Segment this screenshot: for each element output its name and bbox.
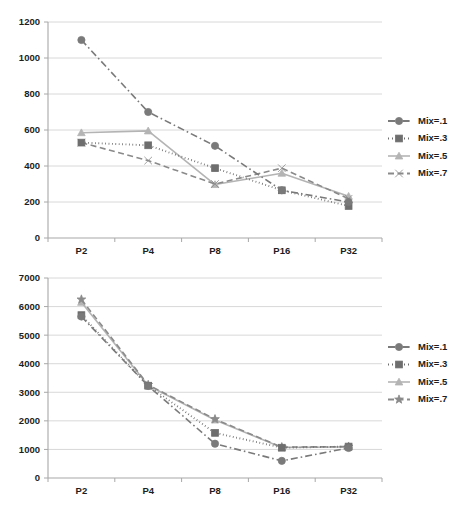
- ytick-label: 2000: [19, 415, 40, 426]
- ytick-label: 7000: [19, 272, 40, 283]
- marker-square: [212, 165, 219, 172]
- xtick-label: P4: [142, 245, 154, 256]
- series-line: [81, 302, 348, 447]
- ytick-label: 1000: [19, 444, 40, 455]
- series-line: [81, 143, 348, 206]
- marker-square: [145, 142, 152, 149]
- series-Mix5: [78, 298, 353, 450]
- series-line: [81, 299, 348, 447]
- legend-item-Mix7[interactable]: Mix=.7: [388, 393, 447, 404]
- series-line: [81, 40, 348, 202]
- ytick-label: 200: [24, 196, 40, 207]
- xtick-label: P32: [340, 485, 357, 496]
- ytick-label: 4000: [19, 358, 40, 369]
- ytick-label: 0: [35, 232, 40, 243]
- xtick-label: P32: [340, 245, 357, 256]
- legend-label: Mix=.1: [418, 341, 448, 352]
- line-chart-top: 020040060080010001200P2P4P8P16P32Mix=.1M…: [0, 0, 475, 258]
- line-chart-bottom: 01000200030004000500060007000P2P4P8P16P3…: [0, 258, 475, 511]
- series-Mix3: [78, 312, 352, 451]
- xtick-label: P2: [76, 485, 88, 496]
- series-Mix7: [77, 295, 353, 451]
- chart-panel-top: 020040060080010001200P2P4P8P16P32Mix=.1M…: [0, 0, 475, 258]
- legend-label: Mix=.5: [418, 376, 448, 387]
- marker-circle: [78, 313, 85, 320]
- series-Mix5: [78, 127, 353, 199]
- legend-label: Mix=.3: [418, 358, 447, 369]
- marker-circle: [278, 457, 285, 464]
- legend-item-Mix5[interactable]: Mix=.5: [388, 150, 448, 161]
- xtick-label: P2: [76, 245, 88, 256]
- legend-label: Mix=.7: [418, 167, 447, 178]
- legend-item-Mix7[interactable]: Mix=.7: [388, 167, 447, 178]
- legend-item-Mix1[interactable]: Mix=.1: [388, 341, 448, 352]
- ytick-label: 6000: [19, 301, 40, 312]
- marker-circle: [345, 444, 352, 451]
- legend-item-Mix5[interactable]: Mix=.5: [388, 376, 448, 387]
- legend-item-Mix3[interactable]: Mix=.3: [388, 358, 447, 369]
- marker-square: [212, 429, 219, 436]
- ytick-label: 1200: [19, 16, 40, 27]
- marker-square: [278, 444, 285, 451]
- ytick-label: 5000: [19, 330, 40, 341]
- marker-square: [396, 135, 403, 142]
- ytick-label: 800: [24, 88, 40, 99]
- marker-circle: [395, 117, 402, 124]
- marker-circle: [395, 343, 402, 350]
- marker-circle: [78, 36, 85, 43]
- xtick-label: P4: [142, 485, 154, 496]
- xtick-label: P16: [273, 245, 290, 256]
- ytick-label: 600: [24, 124, 40, 135]
- xtick-label: P16: [273, 485, 290, 496]
- marker-circle: [278, 187, 285, 194]
- xtick-label: P8: [209, 245, 221, 256]
- marker-circle: [345, 198, 352, 205]
- ytick-label: 3000: [19, 387, 40, 398]
- marker-square: [396, 361, 403, 368]
- xtick-label: P8: [209, 485, 221, 496]
- chart-panel-bottom: 01000200030004000500060007000P2P4P8P16P3…: [0, 258, 475, 511]
- marker-square: [78, 139, 85, 146]
- series-line: [81, 317, 348, 461]
- marker-star: [395, 395, 404, 403]
- ytick-label: 400: [24, 160, 40, 171]
- legend-label: Mix=.1: [418, 115, 448, 126]
- legend-item-Mix1[interactable]: Mix=.1: [388, 115, 448, 126]
- ytick-label: 1000: [19, 52, 40, 63]
- ytick-label: 0: [35, 472, 40, 483]
- legend-item-Mix3[interactable]: Mix=.3: [388, 132, 447, 143]
- marker-circle: [211, 440, 218, 447]
- marker-circle: [145, 108, 152, 115]
- legend-label: Mix=.5: [418, 150, 448, 161]
- legend-label: Mix=.7: [418, 393, 447, 404]
- legend-label: Mix=.3: [418, 132, 447, 143]
- series-Mix1: [78, 313, 352, 464]
- chart-page: 020040060080010001200P2P4P8P16P32Mix=.1M…: [0, 0, 475, 511]
- marker-circle: [145, 382, 152, 389]
- marker-circle: [211, 142, 218, 149]
